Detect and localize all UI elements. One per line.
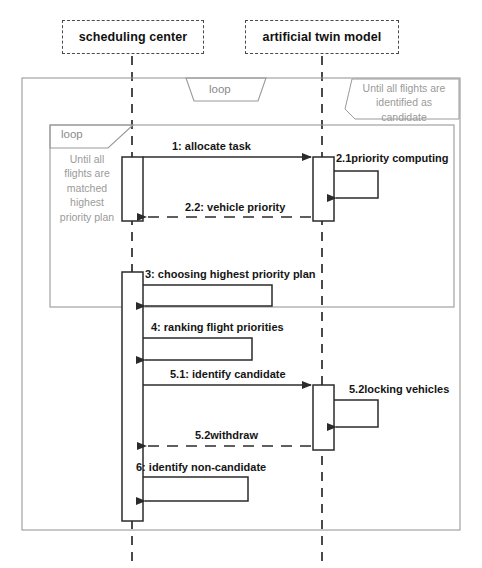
- message-label-1: 1: allocate task: [172, 140, 251, 152]
- participant-scheduling-center-label: scheduling center: [79, 30, 188, 44]
- message-label-5-1: 5.1: identify candidate: [170, 368, 286, 380]
- message-label-4: 4: ranking flight priorities: [151, 321, 284, 333]
- message-label-2-1: 2.1priority computing: [336, 152, 448, 164]
- message-label-6: 6: identify non-candidate: [136, 461, 266, 473]
- message-label-5-2-locking: 5.2locking vehicles: [349, 383, 449, 395]
- message-label-3: 3: choosing highest priority plan: [145, 268, 316, 280]
- outer-loop-operator-label: loop: [209, 83, 231, 95]
- activation-artificial-twin-model-1: [313, 157, 334, 221]
- message-3-choosing-highest-priority-plan: [143, 285, 272, 306]
- participant-artificial-twin-model[interactable]: artificial twin model: [245, 20, 399, 54]
- inner-loop-operator-label: loop: [61, 128, 83, 140]
- participant-scheduling-center[interactable]: scheduling center: [62, 20, 204, 54]
- message-4-ranking-flight-priorities: [143, 338, 252, 360]
- message-label-5-2-withdraw: 5.2withdraw: [195, 429, 258, 441]
- message-label-2-2: 2.2: vehicle priority: [185, 201, 285, 213]
- sequence-diagram-canvas: scheduling center artificial twin model …: [0, 0, 482, 568]
- activation-artificial-twin-model-2: [313, 385, 334, 450]
- inner-loop-guard-text: Until all flights are matched highest pr…: [52, 152, 122, 224]
- activation-scheduling-center-2: [122, 272, 143, 521]
- message-5-2-locking-vehicles: [334, 400, 378, 427]
- outer-loop-guard-text: Until all flights are identified as cand…: [350, 81, 458, 124]
- participant-artificial-twin-model-label: artificial twin model: [263, 30, 382, 44]
- activation-scheduling-center-1: [122, 157, 143, 221]
- message-2-1-priority-computing: [334, 171, 378, 198]
- message-6-identify-non-candidate: [143, 477, 248, 501]
